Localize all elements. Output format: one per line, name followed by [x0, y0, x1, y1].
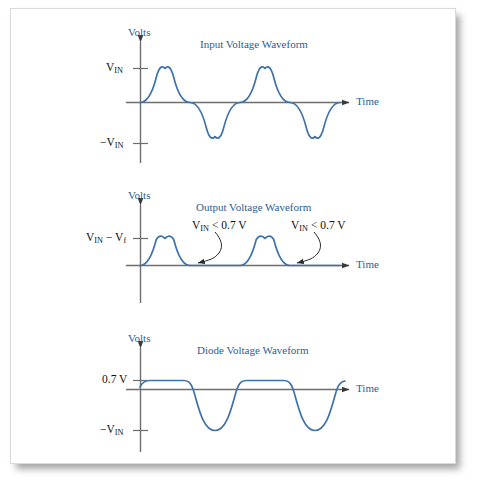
- annotation-subscript: IN: [299, 224, 308, 233]
- tick-subscript: IN: [115, 428, 124, 437]
- tick-suffix-subscript: f: [123, 236, 126, 245]
- waveform-diode-clipped: [140, 381, 345, 431]
- y-tick-label-negative-chart1: −VIN: [100, 137, 124, 150]
- tick-prefix: −V: [100, 423, 115, 435]
- annotation-suffix: < 0.7 V: [308, 219, 346, 231]
- x-axis-label-chart2: Time: [356, 259, 379, 270]
- y-tick-label-negative-chart3: −VIN: [100, 424, 124, 437]
- chart-input-voltage: [126, 42, 349, 163]
- annotation-leader-1: [198, 232, 222, 263]
- tick-subscript: IN: [114, 66, 123, 75]
- y-tick-label-positive-chart1: VIN: [106, 62, 123, 75]
- y-axis-label-chart1: Volts: [128, 27, 150, 38]
- chart-title-input-voltage: Input Voltage Waveform: [200, 39, 308, 50]
- x-axis-label-chart3: Time: [356, 383, 379, 394]
- chart-diode-voltage: [126, 348, 349, 452]
- annotation-leader-2: [297, 232, 321, 263]
- annotation-label-1-chart2: VIN < 0.7 V: [192, 220, 247, 233]
- x-axis-label-chart1: Time: [356, 96, 379, 107]
- y-axis-label-chart2: Volts: [128, 190, 150, 201]
- tick-suffix: − V: [103, 231, 123, 243]
- y-tick-label-positive-chart2: VIN − Vf: [86, 232, 126, 245]
- figure-root: Volts Input Voltage Waveform Time VIN −V…: [0, 0, 478, 485]
- chart-title-output-voltage: Output Voltage Waveform: [196, 202, 311, 213]
- y-tick-label-positive-chart3: 0.7 V: [102, 374, 127, 386]
- annotation-suffix: < 0.7 V: [209, 219, 247, 231]
- annotation-subscript: IN: [200, 224, 209, 233]
- annotation-label-2-chart2: VIN < 0.7 V: [291, 220, 346, 233]
- tick-prefix: −V: [100, 136, 115, 148]
- tick-subscript: IN: [115, 141, 124, 150]
- figure-canvas: [0, 0, 478, 485]
- y-axis-label-chart3: Volts: [128, 333, 150, 344]
- chart-title-diode-voltage: Diode Voltage Waveform: [197, 345, 309, 356]
- tick-subscript: IN: [94, 236, 103, 245]
- waveform-output-halfwave: [140, 236, 340, 265]
